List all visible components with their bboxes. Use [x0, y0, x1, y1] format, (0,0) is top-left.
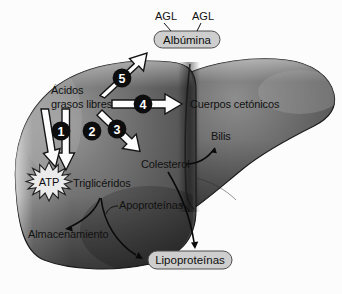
trigliceridos-label: Triglicéridos: [73, 177, 131, 189]
liver-fissure: [178, 62, 200, 212]
agl-left-label: AGL: [155, 10, 177, 22]
liver-metabolism-diagram: Albúmina AGL AGL Lipoproteínas ATP: [0, 0, 342, 294]
badge-1-number: 1: [58, 125, 65, 139]
node-lipoproteinas[interactable]: Lipoproteínas: [148, 251, 232, 269]
badge-3-number: 3: [114, 123, 121, 137]
colesterol-label: Colesterol: [141, 158, 190, 170]
liver-right-lobe: [180, 56, 342, 220]
cuerpos-cetonicos-label: Cuerpos cetónicos: [190, 98, 280, 110]
pathway-badge-3[interactable]: 3: [108, 120, 127, 139]
lipoproteinas-arrowhead-right: [191, 242, 198, 249]
pathway-badge-1[interactable]: 1: [52, 122, 71, 141]
badge-5-number: 5: [119, 72, 126, 86]
badge-2-number: 2: [89, 125, 96, 139]
agl-right-label: AGL: [192, 10, 214, 22]
lipoproteinas-label: Lipoproteínas: [155, 254, 225, 266]
apoproteinas-label: Apoproteínas: [119, 199, 184, 211]
node-albumina[interactable]: Albúmina: [154, 31, 220, 48]
pathway-badge-5[interactable]: 5: [113, 69, 132, 88]
albumina-label: Albúmina: [163, 34, 212, 46]
pathway-badge-4[interactable]: 4: [134, 95, 153, 114]
atp-label: ATP: [39, 176, 60, 188]
agl-left-leader: [164, 23, 171, 31]
agl-group: AGL AGL: [155, 10, 214, 31]
acidos-grasos-line1: Ácidos: [51, 84, 84, 96]
bilis-label: Bilis: [211, 130, 231, 142]
agl-right-leader: [197, 23, 201, 31]
acidos-grasos-line2: grasos libres: [51, 98, 113, 110]
diagram-canvas: Albúmina AGL AGL Lipoproteínas ATP: [0, 0, 342, 294]
almacenamiento-label: Almacenamiento: [28, 228, 109, 240]
pathway-badge-2[interactable]: 2: [83, 122, 102, 141]
badge-4-number: 4: [140, 98, 147, 112]
